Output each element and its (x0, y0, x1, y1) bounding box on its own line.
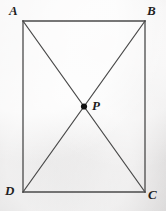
vertex-label-c: C (148, 188, 157, 201)
intersection-point-p (81, 103, 87, 109)
point-label-p: P (92, 99, 100, 112)
vertex-label-a: A (9, 4, 18, 17)
rectangle-diagram-svg (0, 0, 166, 211)
geometry-figure: A B C D P (0, 0, 166, 211)
vertex-label-b: B (147, 4, 156, 17)
vertex-label-d: D (5, 184, 14, 197)
